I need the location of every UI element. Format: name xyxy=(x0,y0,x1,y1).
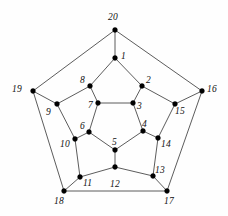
vertex-label-6: 6 xyxy=(80,122,85,132)
graph-edge xyxy=(75,139,80,177)
vertex-label-20: 20 xyxy=(108,13,118,23)
graph-vertex-6[interactable] xyxy=(87,130,92,135)
graph-vertex-10[interactable] xyxy=(73,137,78,142)
graph-vertex-20[interactable] xyxy=(113,28,118,33)
graph-edge xyxy=(80,167,115,177)
vertex-label-16: 16 xyxy=(207,85,217,95)
vertex-label-10: 10 xyxy=(60,140,70,150)
graph-vertex-5[interactable] xyxy=(113,148,118,153)
graph-edge xyxy=(115,30,202,91)
vertex-label-11: 11 xyxy=(83,179,92,189)
graph-edge xyxy=(115,58,142,86)
graph-edge xyxy=(90,58,115,86)
vertex-label-4: 4 xyxy=(142,120,147,130)
graph-edge xyxy=(64,177,80,191)
graph-vertex-7[interactable] xyxy=(96,101,101,106)
graph-vertex-19[interactable] xyxy=(31,89,36,94)
graph-edge xyxy=(115,131,143,150)
vertex-label-9: 9 xyxy=(46,108,51,118)
vertex-label-12: 12 xyxy=(110,180,120,190)
vertex-label-15: 15 xyxy=(175,107,185,117)
graph-vertex-2[interactable] xyxy=(140,84,145,89)
graph-vertex-14[interactable] xyxy=(156,136,161,141)
graph-vertex-16[interactable] xyxy=(200,89,205,94)
graph-vertex-11[interactable] xyxy=(78,175,83,180)
graph-edge xyxy=(57,104,75,139)
graph-edge xyxy=(158,104,175,138)
vertex-label-18: 18 xyxy=(54,197,64,207)
graph-vertex-1[interactable] xyxy=(113,56,118,61)
vertex-label-1: 1 xyxy=(121,52,126,62)
vertex-label-3: 3 xyxy=(137,102,142,112)
graph-edge xyxy=(57,86,90,104)
vertex-label-17: 17 xyxy=(164,197,174,207)
vertex-label-19: 19 xyxy=(12,85,22,95)
graph-edge xyxy=(115,167,153,176)
graph-vertex-8[interactable] xyxy=(88,84,93,89)
graph-vertex-9[interactable] xyxy=(55,102,60,107)
graph-vertex-3[interactable] xyxy=(131,101,136,106)
vertex-label-5: 5 xyxy=(112,138,117,148)
vertex-label-7: 7 xyxy=(88,101,93,111)
vertex-label-13: 13 xyxy=(155,166,165,176)
graph-vertex-18[interactable] xyxy=(62,189,67,194)
graph-edge xyxy=(153,176,167,191)
vertex-label-8: 8 xyxy=(80,76,85,86)
vertex-label-14: 14 xyxy=(161,140,171,150)
graph-vertex-12[interactable] xyxy=(113,165,118,170)
graph-edge xyxy=(142,86,175,104)
graph-figure: 1234567891011121314151617181920 xyxy=(0,0,228,216)
graph-edge xyxy=(33,30,115,91)
vertex-label-2: 2 xyxy=(146,76,151,86)
graph-vertex-17[interactable] xyxy=(165,189,170,194)
